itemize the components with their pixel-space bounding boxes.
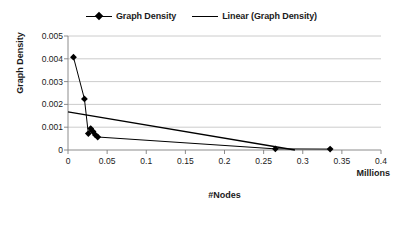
chart-container: Graph Density Linear (Graph Density) Gra…	[0, 0, 403, 230]
x-tick-label-2: 0.1	[126, 156, 166, 166]
y-tick-label-4: 0.004	[19, 54, 63, 64]
y-tick-label-5: 0.005	[19, 31, 63, 41]
x-tick-label-5: 0.25	[244, 156, 284, 166]
x-tick-label-1: 0.05	[87, 156, 127, 166]
y-tick-label-3: 0.003	[19, 77, 63, 87]
data-point-marker-0	[70, 54, 77, 61]
gridlines	[68, 36, 381, 127]
y-tick-label-1: 0.001	[19, 122, 63, 132]
data-point-marker-1	[81, 96, 88, 103]
data-point-marker-8	[327, 146, 334, 153]
series-linear-trendline	[68, 112, 295, 150]
x-tick-label-4: 0.2	[205, 156, 245, 166]
x-tick-label-3: 0.15	[165, 156, 205, 166]
x-tick-label-6: 0.3	[283, 156, 323, 166]
x-tick-label-8: 0.4	[361, 156, 401, 166]
series-line-graph-density	[73, 57, 330, 149]
y-tick-label-2: 0.002	[19, 99, 63, 109]
trendline-path	[68, 112, 295, 150]
axis-lines	[64, 36, 381, 154]
y-tick-label-0: 0	[19, 145, 63, 155]
series-graph-density	[70, 54, 333, 153]
x-tick-label-0: 0	[48, 156, 88, 166]
x-tick-label-7: 0.35	[322, 156, 362, 166]
